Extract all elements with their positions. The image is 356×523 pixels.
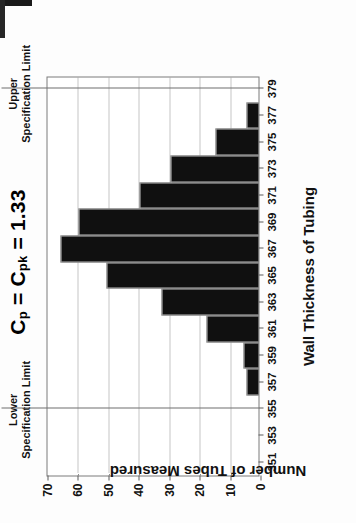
lower-spec-limit-line1: Lower <box>6 360 19 458</box>
y-tick-label-20: 20 <box>192 483 206 496</box>
x-tick-357 <box>258 381 263 382</box>
x-tick-label-359: 359 <box>265 346 277 365</box>
y-tick-label-0: 0 <box>253 483 267 490</box>
upper-spec-limit-caption: Upper Specification Limit <box>6 44 32 142</box>
title-cpk-symbol: C <box>5 271 28 286</box>
x-tick-367 <box>258 247 263 248</box>
upper-spec-limit-line2: Specification Limit <box>19 44 32 142</box>
x-tick-379 <box>258 87 263 88</box>
x-tick-375 <box>258 141 263 142</box>
bar-363 <box>161 288 258 315</box>
y-tick-label-10: 10 <box>223 483 237 496</box>
x-tick-label-363: 363 <box>265 292 277 311</box>
lower-spec-limit-caption: Lower Specification Limit <box>6 360 32 458</box>
x-tick-363 <box>258 301 263 302</box>
x-tick-label-375: 375 <box>265 132 277 151</box>
bar-375 <box>215 128 258 155</box>
bar-365 <box>106 262 258 289</box>
x-tick-355 <box>258 407 263 408</box>
x-tick-365 <box>258 274 263 275</box>
lower-spec-limit-line2: Specification Limit <box>19 360 32 458</box>
x-tick-label-367: 367 <box>265 239 277 258</box>
x-tick-label-357: 357 <box>265 372 277 391</box>
x-tick-label-373: 373 <box>265 159 277 178</box>
x-tick-377 <box>258 114 263 115</box>
x-tick-label-361: 361 <box>265 319 277 338</box>
x-tick-371 <box>258 194 263 195</box>
title-equals-value: = 1.33 <box>5 189 28 255</box>
bar-373 <box>170 155 258 182</box>
lower-spec-limit-line <box>1 407 258 408</box>
upper-spec-limit-line <box>1 87 258 88</box>
x-tick-361 <box>258 327 263 328</box>
bar-369 <box>78 208 258 235</box>
title-equals-1: = <box>5 286 28 311</box>
y-tick-label-40: 40 <box>131 483 145 496</box>
y-tick-label-50: 50 <box>101 483 115 496</box>
x-tick-label-371: 371 <box>265 186 277 205</box>
x-axis-title: Wall Thickness of Tubing <box>299 76 316 476</box>
title-cp-symbol: C <box>5 319 28 334</box>
y-tick-label-60: 60 <box>70 483 84 496</box>
x-tick-label-369: 369 <box>265 212 277 231</box>
title-cpk-subscript: pk <box>14 255 29 271</box>
upper-spec-limit-line1: Upper <box>6 44 19 142</box>
bar-361 <box>206 315 258 342</box>
x-tick-label-355: 355 <box>265 399 277 418</box>
title-cp-subscript: p <box>14 311 29 319</box>
x-tick-369 <box>258 221 263 222</box>
x-tick-label-379: 379 <box>265 79 277 98</box>
rotated-figure-group: Cp = Cpk = 1.33 Lower Specification Limi… <box>0 0 356 523</box>
x-tick-label-353: 353 <box>265 426 277 445</box>
bar-359 <box>243 342 258 369</box>
x-tick-353 <box>258 434 263 435</box>
bar-367 <box>60 235 258 262</box>
y-tick-label-70: 70 <box>40 483 54 496</box>
x-tick-351 <box>258 461 263 462</box>
bar-377 <box>246 102 258 129</box>
bar-357 <box>246 368 258 395</box>
figure-canvas: Cp = Cpk = 1.33 Lower Specification Limi… <box>0 0 356 523</box>
x-tick-label-377: 377 <box>265 106 277 125</box>
x-tick-label-365: 365 <box>265 266 277 285</box>
bar-371 <box>139 182 258 209</box>
histogram-figure: Cp = Cpk = 1.33 Lower Specification Limi… <box>0 0 356 523</box>
y-tick-70 <box>47 475 48 480</box>
x-tick-359 <box>258 354 263 355</box>
x-tick-373 <box>258 167 263 168</box>
plot-area: 3513533553573593613633653673693713733753… <box>46 76 259 476</box>
bars-layer <box>47 77 258 475</box>
y-tick-label-30: 30 <box>162 483 176 496</box>
